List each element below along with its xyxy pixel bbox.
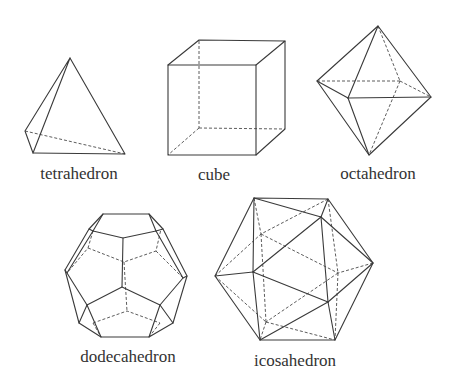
dodecahedron-label: dodecahedron: [80, 347, 176, 366]
octahedron-label: octahedron: [340, 164, 416, 183]
tetrahedron-label: tetrahedron: [40, 164, 118, 183]
octahedron-figure: octahedron: [317, 26, 431, 183]
platonic-solids-diagram: tetrahedron cube octahedron: [0, 0, 453, 391]
icosahedron-figure: icosahedron: [215, 198, 373, 370]
dodecahedron-figure: dodecahedron: [65, 214, 187, 366]
cube-label: cube: [198, 165, 230, 184]
cube-figure: cube: [168, 40, 285, 184]
tetrahedron-figure: tetrahedron: [25, 58, 125, 183]
icosahedron-label: icosahedron: [254, 351, 337, 370]
